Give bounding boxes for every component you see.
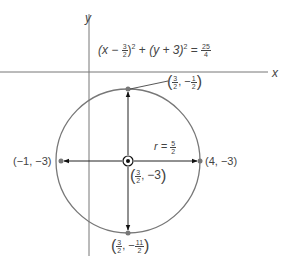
circle-equation: (x − 32)2 + (y + 3)2 = 254 xyxy=(98,43,211,58)
label-point-right: (4, −3) xyxy=(205,156,237,167)
y-axis-label: y xyxy=(85,12,91,24)
eq-lhs1-open: (x − xyxy=(98,43,122,57)
label-point-bottom: (32, −112) xyxy=(111,238,149,254)
point-bottom xyxy=(126,231,131,236)
top-label-leader xyxy=(130,81,168,89)
label-center: (32, −3) xyxy=(130,168,166,184)
label-point-left: (−1, −3) xyxy=(13,156,52,167)
point-left xyxy=(59,159,64,164)
label-point-top: (32, −12) xyxy=(167,74,202,90)
diagram-canvas xyxy=(0,0,289,270)
point-top xyxy=(126,87,131,92)
x-axis-label: x xyxy=(272,67,278,79)
eq-rhs-frac: 254 xyxy=(201,43,211,58)
label-radius: r = 52 xyxy=(154,140,176,155)
center-point xyxy=(126,159,130,163)
point-right xyxy=(198,159,203,164)
